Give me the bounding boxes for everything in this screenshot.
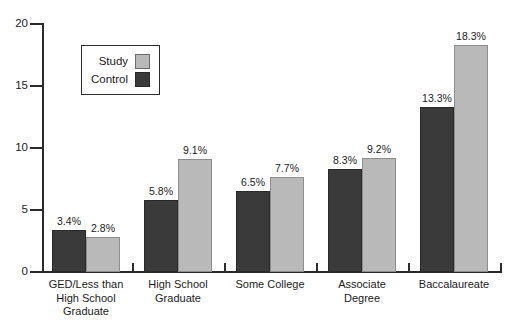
x-tick-2	[316, 263, 318, 273]
legend-label-control: Control	[91, 73, 128, 85]
x-tick-3	[408, 263, 410, 273]
chart-legend: Study Control	[81, 45, 160, 95]
bar-value-label-study-3: 9.2%	[357, 144, 401, 155]
bar-study-4	[454, 45, 488, 272]
legend-item-study: Study	[91, 52, 150, 70]
bar-study-0	[86, 237, 120, 272]
bar-control-4	[420, 107, 454, 272]
legend-swatch-control	[135, 72, 150, 87]
y-tick-0	[30, 271, 44, 273]
bar-control-2	[236, 191, 270, 272]
bar-value-label-control-4: 13.3%	[415, 93, 459, 104]
bar-value-label-control-2: 6.5%	[231, 177, 275, 188]
y-tick-20	[30, 23, 44, 25]
bar-value-label-study-2: 7.7%	[265, 163, 309, 174]
y-tick-label-20: 20	[2, 18, 28, 29]
bar-value-label-study-0: 2.8%	[81, 223, 125, 234]
bar-value-label-study-4: 18.3%	[449, 31, 493, 42]
bar-value-label-control-3: 8.3%	[323, 155, 367, 166]
bar-value-label-control-1: 5.8%	[139, 186, 183, 197]
bar-control-1	[144, 200, 178, 272]
legend-item-control: Control	[91, 70, 150, 88]
legend-swatch-study	[135, 54, 150, 69]
y-tick-label-5: 5	[2, 204, 28, 215]
bar-study-2	[270, 177, 304, 272]
legend-label-study: Study	[99, 55, 128, 67]
bar-control-0	[52, 230, 86, 272]
y-tick-label-0: 0	[2, 266, 28, 277]
bar-control-3	[328, 169, 362, 272]
x-tick-0	[132, 263, 134, 273]
bar-chart: 05101520 3.4%2.8%5.8%9.1%6.5%7.7%8.3%9.2…	[0, 0, 514, 328]
y-tick-label-10: 10	[2, 142, 28, 153]
bar-study-1	[178, 159, 212, 272]
x-tick-4	[500, 263, 502, 273]
y-tick-5	[30, 209, 44, 211]
x-tick-1	[224, 263, 226, 273]
y-tick-15	[30, 85, 44, 87]
category-label-4: Baccalaureate	[398, 278, 510, 292]
y-tick-label-15: 15	[2, 80, 28, 91]
bar-study-3	[362, 158, 396, 272]
y-tick-10	[30, 147, 44, 149]
bar-value-label-study-1: 9.1%	[173, 145, 217, 156]
